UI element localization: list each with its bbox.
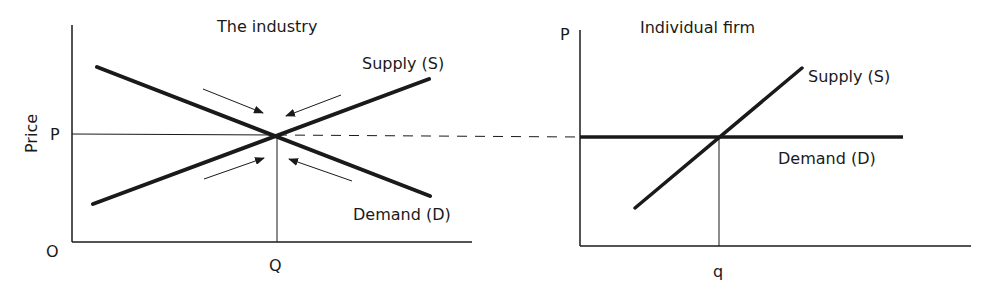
industry-supply-label: Supply (S) bbox=[362, 54, 444, 73]
industry-quantity-label: Q bbox=[269, 256, 282, 275]
industry-panel: The industry P O Q Supply (S) Demand (D)… bbox=[22, 17, 472, 275]
firm-title: Individual firm bbox=[640, 18, 755, 37]
industry-supply-curve bbox=[93, 79, 429, 204]
industry-demand-label: Demand (D) bbox=[353, 205, 451, 224]
industry-price-guide bbox=[72, 134, 277, 135]
firm-panel: Individual firm P q Supply (S) Demand (D… bbox=[560, 18, 971, 281]
firm-supply-label: Supply (S) bbox=[808, 67, 890, 86]
price-link-dashed-line bbox=[277, 135, 580, 137]
industry-title: The industry bbox=[216, 17, 317, 36]
industry-price-label: P bbox=[50, 125, 60, 144]
firm-quantity-label: q bbox=[713, 262, 723, 281]
industry-demand-curve bbox=[97, 67, 430, 196]
industry-origin-label: O bbox=[46, 242, 59, 261]
firm-demand-label: Demand (D) bbox=[778, 149, 876, 168]
arrow-icon bbox=[203, 89, 263, 113]
y-axis-label: Price bbox=[22, 114, 41, 153]
market-diagram: The industry P O Q Supply (S) Demand (D)… bbox=[0, 0, 989, 297]
firm-price-label: P bbox=[560, 25, 570, 44]
